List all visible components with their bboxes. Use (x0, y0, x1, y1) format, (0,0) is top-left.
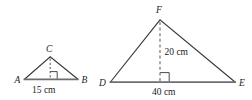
vertex-label-a: A (14, 75, 21, 85)
triangle-def-group: D E F 20 cm 40 cm (98, 5, 245, 97)
vertex-label-e: E (238, 78, 245, 88)
triangle-abc-sides (25, 57, 79, 79)
triangle-abc-right-angle-mark (50, 72, 57, 79)
triangle-def-height-dimension: 20 cm (165, 47, 189, 57)
vertex-label-f: F (155, 5, 162, 15)
vertex-label-d: D (98, 78, 106, 88)
triangle-abc-base-dimension: 15 cm (32, 85, 56, 95)
triangle-def-right-angle-mark (160, 73, 169, 82)
vertex-label-c: C (46, 44, 53, 54)
triangle-def-base-dimension: 40 cm (152, 87, 176, 97)
vertex-label-b: B (82, 75, 88, 85)
geometry-figure: A B C 15 cm D E F 20 cm 40 cm (0, 0, 252, 100)
figure-canvas: A B C 15 cm D E F 20 cm 40 cm (0, 0, 252, 100)
triangle-abc-group: A B C 15 cm (14, 44, 88, 95)
